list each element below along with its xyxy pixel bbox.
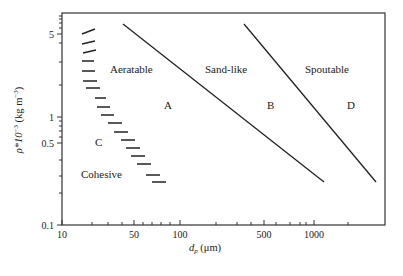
chart: 105010050010000.10.515 AeratableSand-lik… — [0, 0, 403, 276]
boundary-line-a-b — [123, 24, 324, 182]
y-tick-label: 0.5 — [42, 138, 55, 149]
hatch-mark — [82, 41, 95, 44]
region-label-d: D — [347, 99, 355, 111]
region-label-spoutable: Spoutable — [305, 63, 349, 75]
hatch-mark — [83, 50, 96, 53]
plot-border — [62, 13, 385, 225]
x-tick-label: 100 — [173, 229, 188, 240]
region-label-c: C — [95, 136, 102, 148]
region-label-cohesive: Cohesive — [81, 168, 122, 180]
x-tick-label: 10 — [57, 229, 67, 240]
x-tick-label: 500 — [257, 229, 272, 240]
boundary-line-b-d — [244, 24, 376, 182]
hatched-boundary — [82, 29, 166, 182]
axis-ticks: 105010050010000.10.515 — [42, 16, 349, 240]
y-axis-label: ρ*10−3 (kg m−3) — [12, 86, 25, 154]
y-tick-label: 5 — [49, 29, 54, 40]
region-labels: AeratableSand-likeSpoutableABDCCohesive — [81, 63, 355, 180]
plot-frame — [62, 13, 385, 225]
x-tick-label: 50 — [129, 229, 139, 240]
y-tick-label: 0.1 — [42, 220, 55, 231]
boundary-lines — [123, 24, 376, 182]
hatch-mark — [82, 29, 95, 34]
x-axis-label: dp (μm) — [189, 242, 222, 255]
region-label-sand-like: Sand-like — [205, 63, 247, 75]
region-label-b: B — [267, 99, 274, 111]
y-tick-label: 1 — [49, 112, 54, 123]
region-label-a: A — [164, 99, 172, 111]
x-tick-label: 1000 — [304, 229, 324, 240]
region-label-aeratable: Aeratable — [110, 63, 153, 75]
